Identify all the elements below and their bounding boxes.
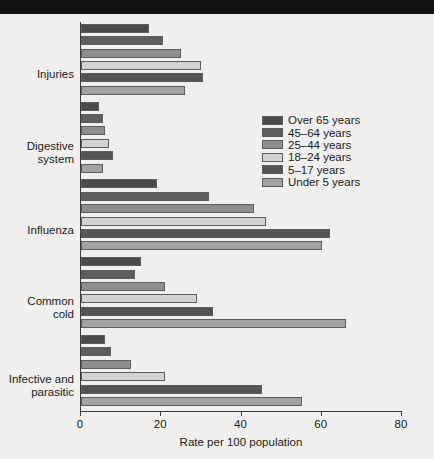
bar xyxy=(81,164,103,173)
bar xyxy=(81,151,113,160)
bar xyxy=(81,294,197,303)
category-label-group: InjuriesDigestive systemInfluenzaCommon … xyxy=(0,36,74,425)
bar xyxy=(81,61,201,70)
bar xyxy=(81,126,105,135)
bar xyxy=(81,385,262,394)
legend-swatch-icon xyxy=(262,116,283,125)
bar xyxy=(81,397,302,406)
legend-swatch-icon xyxy=(262,153,283,162)
bar xyxy=(81,139,109,148)
x-tick-label-40: 40 xyxy=(234,418,247,430)
legend-label: 5–17 years xyxy=(288,164,345,176)
legend: Over 65 years45–64 years25–44 years18–24… xyxy=(262,114,360,188)
bar xyxy=(81,241,322,250)
legend-label: Under 5 years xyxy=(288,176,360,188)
x-tick-label-0: 0 xyxy=(77,418,83,430)
bar xyxy=(81,282,165,291)
plot-area: 020406080 Rate per 100 population xyxy=(80,22,401,411)
legend-item: Under 5 years xyxy=(262,176,360,188)
bar xyxy=(81,73,203,82)
legend-label: 45–64 years xyxy=(288,127,351,139)
chart-canvas: InjuriesDigestive systemInfluenzaCommon … xyxy=(0,14,434,459)
legend-item: 5–17 years xyxy=(262,164,360,176)
category-label: Infective and parasitic xyxy=(9,373,74,399)
x-tick-label-60: 60 xyxy=(314,418,327,430)
legend-item: 18–24 years xyxy=(262,151,360,163)
legend-swatch-icon xyxy=(262,128,283,137)
bar xyxy=(81,307,213,316)
top-black-band xyxy=(0,0,434,14)
category-label: Influenza xyxy=(27,224,74,237)
x-tick-60 xyxy=(321,411,322,416)
bar xyxy=(81,114,103,123)
category-label: Injuries xyxy=(37,68,74,81)
legend-swatch-icon xyxy=(262,140,283,149)
bar xyxy=(81,204,254,213)
bar xyxy=(81,192,209,201)
x-tick-label-20: 20 xyxy=(154,418,167,430)
bar xyxy=(81,24,149,33)
bar xyxy=(81,36,163,45)
bar xyxy=(81,179,157,188)
x-tick-0 xyxy=(80,411,81,416)
legend-label: 25–44 years xyxy=(288,139,351,151)
bar xyxy=(81,270,135,279)
legend-item: 25–44 years xyxy=(262,139,360,151)
category-label: Digestive system xyxy=(27,140,74,166)
bar xyxy=(81,372,165,381)
bar xyxy=(81,347,111,356)
legend-label: Over 65 years xyxy=(288,114,360,126)
x-tick-label-80: 80 xyxy=(395,418,408,430)
category-label: Common cold xyxy=(27,295,74,321)
x-tick-80 xyxy=(401,411,402,416)
bar xyxy=(81,229,330,238)
bar xyxy=(81,102,99,111)
bar xyxy=(81,217,266,226)
bar xyxy=(81,86,185,95)
bar xyxy=(81,360,131,369)
x-tick-40 xyxy=(241,411,242,416)
bar xyxy=(81,257,141,266)
x-tick-20 xyxy=(160,411,161,416)
legend-swatch-icon xyxy=(262,178,283,187)
legend-label: 18–24 years xyxy=(288,151,351,163)
bar xyxy=(81,49,181,58)
legend-item: 45–64 years xyxy=(262,126,360,138)
bar xyxy=(81,319,346,328)
x-axis-title: Rate per 100 population xyxy=(80,436,402,448)
bar xyxy=(81,335,105,344)
legend-item: Over 65 years xyxy=(262,114,360,126)
legend-swatch-icon xyxy=(262,165,283,174)
